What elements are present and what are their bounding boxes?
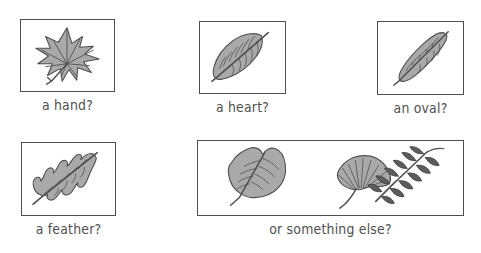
caption-hand: a hand? (20, 97, 115, 113)
caption-heart: a heart? (195, 99, 290, 115)
worksheet-sheet: a hand? (0, 0, 481, 253)
assorted-leaves-drawing (198, 141, 463, 215)
caption-feather: a feather? (21, 221, 116, 237)
figure-box-feather (21, 142, 116, 216)
caption-oval: an oval? (373, 100, 468, 116)
figure-box-else (197, 140, 464, 216)
figure-box-hand (20, 19, 115, 92)
tulip-leaf-sub-drawing (228, 148, 285, 206)
oak-leaf-drawing (22, 143, 115, 215)
heart-shaped-leaf-drawing (200, 22, 285, 93)
oval-leaf-drawing (378, 22, 463, 94)
caption-else: or something else? (197, 221, 464, 237)
figure-box-heart (199, 21, 286, 94)
maple-leaf-drawing (21, 20, 114, 91)
figure-box-oval (377, 21, 464, 95)
